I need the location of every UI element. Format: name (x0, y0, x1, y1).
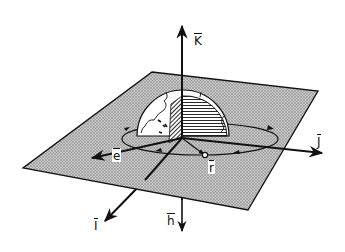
label-e: e (112, 148, 121, 162)
satellite-position (202, 152, 207, 157)
label-i: I (94, 218, 98, 232)
label-k: K (194, 33, 202, 47)
label-r: r (208, 160, 215, 174)
label-j: J (317, 134, 321, 148)
label-h: h (167, 213, 175, 227)
